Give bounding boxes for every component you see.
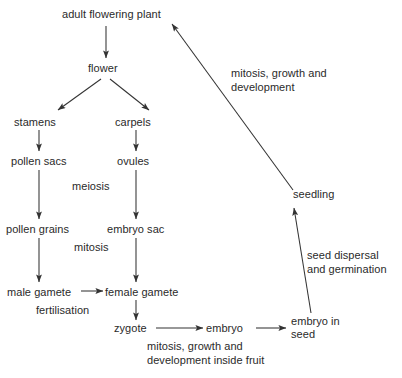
node-carpels: carpels xyxy=(115,116,151,129)
node-adult-flowering-plant: adult flowering plant xyxy=(62,8,161,21)
diagram-edges-layer xyxy=(0,0,402,378)
process-label-fertilisation: fertilisation xyxy=(36,303,89,317)
edge-flower-to-carpels xyxy=(110,79,149,110)
node-ovules: ovules xyxy=(117,155,149,168)
node-zygote: zygote xyxy=(114,322,147,335)
node-pollen-grains: pollen grains xyxy=(6,223,69,236)
node-stamens: stamens xyxy=(14,116,56,129)
process-label-seed-dispersal-and-germination: seed dispersal and germination xyxy=(307,248,387,276)
node-embryo: embryo xyxy=(206,322,243,335)
process-label-meiosis: meiosis xyxy=(72,179,110,193)
edge-flower-to-stamens xyxy=(58,79,101,110)
node-seedling: seedling xyxy=(293,188,334,201)
node-pollen-sacs: pollen sacs xyxy=(11,155,67,168)
process-label-mitosis-growth-development-inside-fruit: mitosis, growth and development inside f… xyxy=(147,339,264,367)
plant-life-cycle-diagram: adult flowering plant flower stamens car… xyxy=(0,0,402,378)
node-embryo-in-seed: embryo in seed xyxy=(291,315,340,341)
node-male-gamete: male gamete xyxy=(7,286,71,299)
node-embryo-sac: embryo sac xyxy=(107,223,164,236)
edge-seedling-to-adult-plant xyxy=(172,24,293,190)
node-flower: flower xyxy=(88,62,118,75)
node-female-gamete: female gamete xyxy=(105,286,178,299)
process-label-mitosis-growth-and-development: mitosis, growth and development xyxy=(231,66,327,94)
process-label-mitosis: mitosis xyxy=(74,240,109,254)
